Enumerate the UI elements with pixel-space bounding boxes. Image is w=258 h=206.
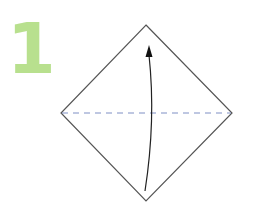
origami-diagram [0, 0, 258, 206]
